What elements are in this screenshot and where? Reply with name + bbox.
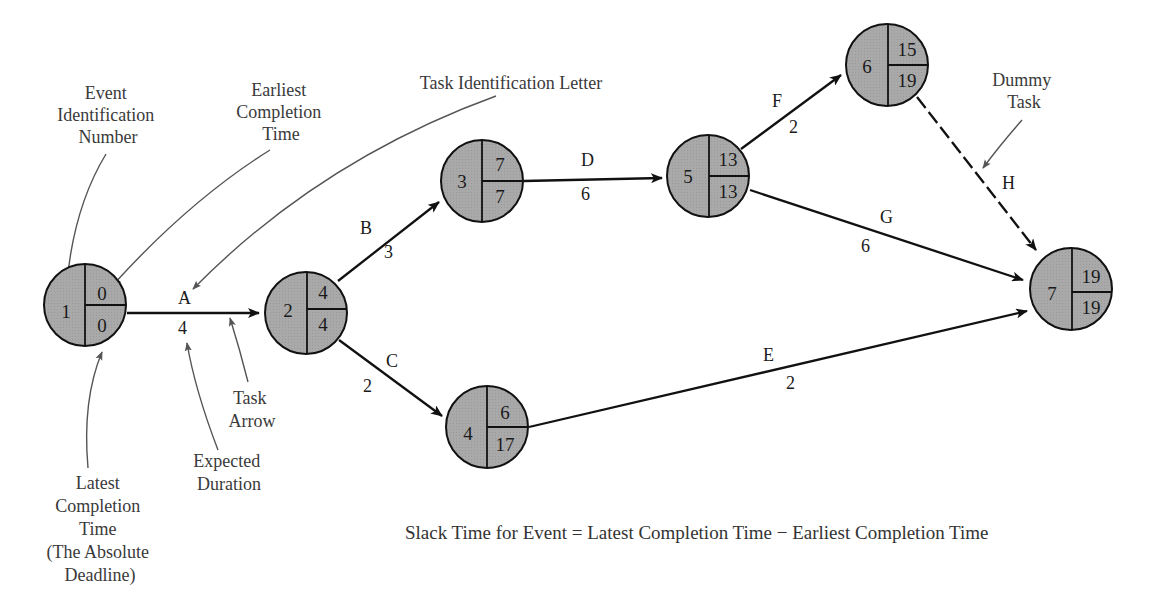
task-duration-f: 2 [789, 117, 798, 137]
callout-event-id: Event Identification Number [57, 83, 158, 147]
task-arrow-f [741, 75, 841, 149]
earliest-time: 4 [318, 282, 328, 303]
event-node-5: 5 13 13 [667, 135, 749, 217]
event-id: 7 [1047, 283, 1057, 304]
task-duration-c: 2 [363, 376, 372, 396]
leader-latest [87, 352, 102, 468]
task-duration-e: 2 [786, 373, 795, 393]
task-letter-e: E [763, 345, 774, 365]
slack-time-formula: Slack Time for Event = Latest Completion… [405, 522, 989, 543]
event-id: 6 [862, 56, 872, 77]
earliest-time: 19 [1082, 266, 1101, 287]
leader-earliest [113, 150, 270, 285]
task-arrow-g [750, 190, 1023, 280]
task-letter-f: F [772, 91, 782, 111]
task-arrow-h-dummy [917, 97, 1036, 250]
latest-time: 19 [898, 70, 917, 91]
event-node-2: 2 4 4 [265, 272, 347, 354]
callout-expected-duration: Expected Duration [193, 451, 264, 494]
task-duration-b: 3 [384, 242, 393, 262]
task-letter-a: A [178, 288, 191, 308]
leader-expected-duration [187, 343, 218, 450]
callout-task-arrow: Task Arrow [229, 388, 276, 431]
task-arrow-d [524, 178, 662, 181]
callout-earliest: Earliest Completion Time [236, 80, 326, 144]
earliest-time: 7 [495, 154, 505, 175]
callout-dummy-task: Dummy Task [992, 70, 1056, 112]
task-letter-b: B [360, 218, 372, 238]
event-node-6: 6 15 19 [846, 24, 928, 106]
event-id: 1 [61, 301, 71, 322]
earliest-time: 13 [719, 149, 738, 170]
earliest-time: 15 [898, 39, 917, 60]
callout-task-letter: Task Identification Letter [420, 73, 603, 93]
event-id: 4 [463, 423, 473, 444]
event-id: 3 [457, 171, 467, 192]
task-letter-c: C [386, 351, 398, 371]
event-id: 2 [283, 300, 293, 321]
callout-latest: Latest Completion Time (The Absolute Dea… [47, 473, 154, 586]
event-node-4: 4 6 17 [446, 386, 528, 468]
earliest-time: 6 [500, 402, 510, 423]
latest-time: 19 [1082, 297, 1101, 318]
task-duration-d: 6 [581, 184, 590, 204]
leader-dummy-task [983, 120, 1022, 168]
leader-task-arrow [230, 318, 248, 382]
event-id: 5 [683, 166, 693, 187]
task-letter-d: D [581, 150, 594, 170]
task-arrow-e [529, 311, 1027, 427]
task-duration-a: 4 [178, 318, 187, 338]
earliest-time: 0 [97, 283, 107, 304]
latest-time: 17 [496, 434, 515, 455]
callout-texts: Event Identification Number Earliest Com… [47, 70, 1056, 586]
pert-diagram: A 4 B 3 C 2 D 6 E 2 F 2 G 6 H Event Iden… [0, 0, 1154, 606]
latest-time: 4 [318, 314, 328, 335]
task-duration-g: 6 [861, 236, 870, 256]
event-node-1: 1 0 0 [44, 264, 126, 346]
event-node-3: 3 7 7 [441, 140, 523, 222]
latest-time: 7 [495, 186, 505, 207]
callout-leaders [66, 96, 1022, 468]
task-letter-g: G [880, 207, 893, 227]
latest-time: 13 [719, 181, 738, 202]
task-letter-h: H [1002, 173, 1015, 193]
latest-time: 0 [97, 315, 107, 336]
event-node-7: 7 19 19 [1030, 248, 1112, 330]
